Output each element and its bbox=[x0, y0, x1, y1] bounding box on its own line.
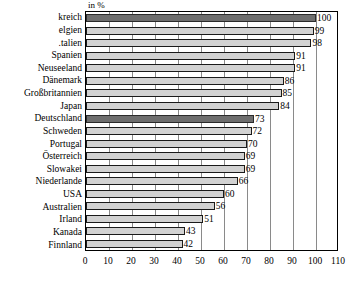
category-label: Dänemark bbox=[0, 74, 84, 87]
bar-value-label: 51 bbox=[202, 214, 214, 224]
bar: 99 bbox=[86, 27, 314, 35]
bar-row: 66 bbox=[86, 175, 337, 188]
bar-value-label: 72 bbox=[251, 126, 263, 136]
category-label: Irland bbox=[0, 213, 84, 226]
bar: 43 bbox=[86, 227, 185, 235]
bar: 98 bbox=[86, 39, 311, 47]
x-tick-label: 0 bbox=[83, 256, 88, 266]
bar-row: 69 bbox=[86, 150, 337, 163]
bar: 51 bbox=[86, 215, 203, 223]
x-tick-label: 10 bbox=[103, 256, 113, 266]
bar-rows: 100999891918685847372706969666056514342 bbox=[86, 12, 337, 250]
bar: 73 bbox=[86, 115, 254, 123]
bar-value-label: 60 bbox=[223, 189, 235, 199]
x-tick-label: 110 bbox=[331, 256, 345, 266]
category-label: elgien bbox=[0, 24, 84, 37]
category-label: Australien bbox=[0, 200, 84, 213]
bar-value-label: 73 bbox=[253, 114, 265, 124]
x-tick-label: 40 bbox=[172, 256, 182, 266]
bar: 72 bbox=[86, 127, 252, 135]
bar: 70 bbox=[86, 140, 247, 148]
bar-value-label: 69 bbox=[244, 151, 256, 161]
category-label-text: Finnland bbox=[48, 240, 82, 250]
bar-value-label: 43 bbox=[184, 226, 196, 236]
bar-value-label: 91 bbox=[294, 63, 306, 73]
bar: 84 bbox=[86, 102, 279, 110]
bar-row: 99 bbox=[86, 25, 337, 38]
bar-value-label: 84 bbox=[278, 101, 290, 111]
bar: 86 bbox=[86, 77, 284, 85]
category-label-text: Großbritannien bbox=[24, 88, 82, 98]
bar-row: 98 bbox=[86, 37, 337, 50]
bar-value-label: 85 bbox=[281, 88, 293, 98]
category-label: Deutschland bbox=[0, 112, 84, 125]
category-label-text: USA bbox=[63, 189, 82, 199]
bar: 56 bbox=[86, 202, 215, 210]
bar: 91 bbox=[86, 64, 295, 72]
bar-value-label: 100 bbox=[315, 13, 331, 23]
category-label-text: Deutschland bbox=[35, 113, 83, 123]
x-tick-label: 90 bbox=[287, 256, 297, 266]
bar: 42 bbox=[86, 240, 183, 248]
category-label-text: kreich bbox=[58, 12, 82, 22]
bar: 69 bbox=[86, 165, 245, 173]
category-label: Neuseeland bbox=[0, 62, 84, 75]
category-label: Slowakei bbox=[0, 163, 84, 176]
category-label: .talien bbox=[0, 36, 84, 49]
bar-chart: in % kreichelgien.talienSpanienNeuseelan… bbox=[0, 0, 350, 285]
bar-value-label: 66 bbox=[237, 176, 249, 186]
bar: 69 bbox=[86, 152, 245, 160]
category-label-text: Japan bbox=[60, 101, 82, 111]
category-label: Kanada bbox=[0, 226, 84, 239]
category-label-text: Neuseeland bbox=[38, 63, 82, 73]
category-label-text: Schweden bbox=[43, 126, 82, 136]
category-label-text: Niederlande bbox=[36, 176, 82, 186]
category-label-text: Kanada bbox=[53, 227, 82, 237]
bar-row: 42 bbox=[86, 238, 337, 251]
category-label-text: elgien bbox=[59, 25, 82, 35]
category-label: USA bbox=[0, 188, 84, 201]
bar-row: 73 bbox=[86, 112, 337, 125]
x-tick-label: 80 bbox=[264, 256, 274, 266]
bar-row: 86 bbox=[86, 75, 337, 88]
x-tick-label: 60 bbox=[218, 256, 228, 266]
category-label: Niederlande bbox=[0, 175, 84, 188]
category-label: Großbritannien bbox=[0, 87, 84, 100]
bar-row: 100 bbox=[86, 12, 337, 25]
category-label: Japan bbox=[0, 99, 84, 112]
unit-label: in % bbox=[88, 0, 105, 10]
bar-value-label: 86 bbox=[283, 76, 295, 86]
x-tick-label: 20 bbox=[126, 256, 136, 266]
bar: 100 bbox=[86, 14, 316, 22]
bar: 85 bbox=[86, 89, 282, 97]
category-label-text: Portugal bbox=[50, 139, 82, 149]
x-tick-label: 50 bbox=[195, 256, 205, 266]
category-axis-labels: kreichelgien.talienSpanienNeuseelandDäne… bbox=[0, 11, 84, 251]
x-tick-label: 70 bbox=[241, 256, 251, 266]
category-label: Portugal bbox=[0, 137, 84, 150]
bar: 60 bbox=[86, 190, 224, 198]
category-label-text: .talien bbox=[59, 38, 82, 48]
bar-row: 43 bbox=[86, 225, 337, 238]
category-label: Schweden bbox=[0, 125, 84, 138]
bar-value-label: 69 bbox=[244, 164, 256, 174]
bar-value-label: 56 bbox=[214, 201, 226, 211]
category-label: Spanien bbox=[0, 49, 84, 62]
category-label-text: Irland bbox=[59, 214, 82, 224]
bar-row: 60 bbox=[86, 187, 337, 200]
category-label-text: Dänemark bbox=[42, 75, 82, 85]
category-label-text: Spanien bbox=[51, 50, 82, 60]
bar-value-label: 70 bbox=[246, 139, 258, 149]
category-label: Finnland bbox=[0, 238, 84, 251]
bar-row: 91 bbox=[86, 62, 337, 75]
bar-row: 72 bbox=[86, 125, 337, 138]
bar: 91 bbox=[86, 52, 295, 60]
bar-row: 70 bbox=[86, 137, 337, 150]
category-label-text: Australien bbox=[42, 202, 82, 212]
bar-row: 91 bbox=[86, 50, 337, 63]
category-label-text: Österreich bbox=[42, 151, 82, 161]
bar-row: 69 bbox=[86, 162, 337, 175]
category-label: Österreich bbox=[0, 150, 84, 163]
bar-row: 85 bbox=[86, 87, 337, 100]
bar-value-label: 98 bbox=[310, 38, 322, 48]
